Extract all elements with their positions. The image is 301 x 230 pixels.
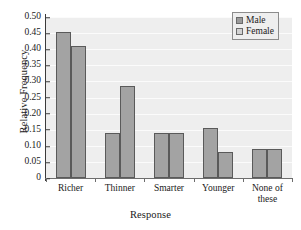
x-axis-line [45,178,293,179]
y-axis-tick-label: 0.45 [24,28,46,38]
x-axis-tick-label: Thinner [95,183,144,194]
x-axis-tick [243,178,244,182]
x-axis-tick-label: None of these [243,183,292,204]
y-axis-tick-label: 0.25 [24,93,46,103]
x-axis-tick-label: Richer [46,183,95,194]
bar-chart: Relative Frequency 0.500.450.400.350.300… [0,0,301,230]
bar-male-1 [105,133,120,178]
x-axis-tick [292,178,293,182]
y-axis-tick-label: 0.35 [24,61,46,71]
y-axis-tick-label: 0.40 [24,44,46,54]
legend-item-female: Female [236,26,274,37]
legend: Male Female [232,12,279,40]
legend-label-male: Male [246,15,266,26]
legend-item-male: Male [236,15,274,26]
bar-male-0 [56,32,71,179]
y-axis-tick-label: 0.50 [24,12,46,22]
y-axis-tick-label: 0 [36,173,46,183]
x-axis-tick-label: Younger [194,183,243,194]
legend-label-female: Female [246,26,274,37]
y-axis-tick-label: 0.15 [24,125,46,135]
bar-male-2 [154,133,169,178]
legend-swatch-male-icon [236,17,243,24]
bar-female-0 [71,46,86,178]
bar-female-2 [169,133,184,178]
y-axis-tick-label: 0.05 [24,157,46,167]
x-axis-tick [194,178,195,182]
plot-area: 0.500.450.400.350.300.250.200.150.100.05… [46,17,292,178]
legend-swatch-female-icon [236,28,243,35]
y-axis-tick-label: 0.30 [24,77,46,87]
x-axis-title: Response [0,209,301,220]
x-axis-tick [95,178,96,182]
bar-male-4 [252,149,267,178]
x-axis-tick [46,178,47,182]
bar-female-1 [120,86,135,178]
x-axis-tick-label: Smarter [144,183,193,194]
bar-female-3 [218,152,233,178]
bar-female-4 [267,149,282,178]
y-axis-tick-label: 0.10 [24,141,46,151]
x-axis-tick [144,178,145,182]
bar-male-3 [203,128,218,178]
y-axis-tick-label: 0.20 [24,109,46,119]
